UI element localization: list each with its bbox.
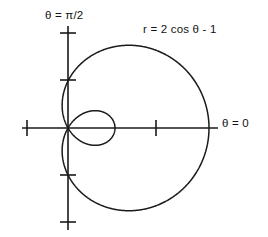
vertical-axis-label: θ = π/2 <box>45 9 83 22</box>
polar-plot-figure: θ = π/2 r = 2 cos θ - 1 θ = 0 <box>0 0 268 237</box>
equation-label: r = 2 cos θ - 1 <box>143 23 217 36</box>
axes-group <box>22 26 218 230</box>
horizontal-axis-label: θ = 0 <box>222 117 249 130</box>
